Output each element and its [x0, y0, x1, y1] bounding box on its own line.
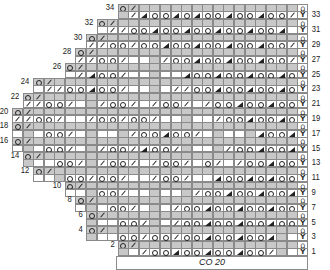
triangle-decrease-icon	[279, 28, 285, 33]
k2tog-icon	[89, 57, 94, 62]
k2tog-icon	[47, 79, 52, 84]
k2tog-icon	[110, 20, 115, 25]
triangle-decrease-icon	[205, 206, 211, 211]
triangle-decrease-icon	[237, 206, 243, 211]
k2tog-icon	[174, 220, 179, 225]
k2tog-icon	[195, 190, 200, 195]
row-number-3: 3	[311, 232, 315, 241]
triangle-decrease-icon	[268, 235, 274, 240]
chart-cell	[33, 174, 44, 182]
triangle-decrease-icon	[194, 43, 200, 48]
triangle-decrease-icon	[141, 147, 147, 152]
triangle-decrease-icon	[279, 117, 285, 122]
triangle-decrease-icon	[268, 161, 274, 166]
row-number-33: 33	[312, 10, 321, 19]
chart-cell	[118, 248, 129, 256]
k2tog-icon	[290, 13, 295, 18]
triangle-decrease-icon	[226, 191, 232, 196]
triangle-decrease-icon	[279, 87, 285, 92]
k2tog-icon	[227, 146, 232, 151]
k2tog-icon	[100, 102, 105, 107]
k2tog-icon	[121, 116, 126, 121]
row-number-23: 23	[312, 84, 321, 93]
chart-cell	[213, 248, 224, 256]
triangle-decrease-icon	[268, 102, 274, 107]
k2tog-icon	[100, 146, 105, 151]
k2tog-icon	[68, 102, 73, 107]
row-number-29: 29	[312, 40, 321, 49]
row-number-12: 12	[21, 166, 30, 175]
triangle-decrease-icon	[184, 28, 190, 33]
row-number-30: 30	[74, 33, 83, 42]
row-number-11: 11	[312, 173, 320, 182]
k2tog-icon	[100, 42, 105, 47]
chart-cell	[287, 248, 298, 256]
chart-cell	[128, 248, 139, 256]
cast-on-label: CO 20	[199, 257, 225, 267]
row-number-31: 31	[312, 25, 321, 34]
triangle-decrease-icon	[289, 191, 295, 196]
chart-cell	[139, 248, 150, 256]
chart-cell	[276, 248, 287, 256]
row-number-27: 27	[312, 55, 321, 64]
triangle-decrease-icon	[268, 176, 274, 181]
chart-cell	[171, 248, 182, 256]
k2tog-icon	[47, 87, 52, 92]
row-number-25: 25	[312, 70, 321, 79]
k2tog-icon	[79, 72, 84, 77]
k2tog-icon	[142, 235, 147, 240]
row-number-17: 17	[312, 129, 321, 138]
triangle-decrease-icon	[194, 58, 200, 63]
row-number-16: 16	[0, 136, 8, 145]
row-number-21: 21	[312, 99, 321, 108]
cast-on-row: CO 20	[116, 256, 308, 270]
k2tog-icon	[47, 168, 52, 173]
k2tog-icon	[216, 161, 221, 166]
triangle-decrease-icon	[289, 132, 295, 137]
triangle-decrease-icon	[258, 43, 264, 48]
chart-cell	[266, 248, 277, 256]
triangle-decrease-icon	[173, 13, 179, 18]
k2tog-icon	[68, 131, 73, 136]
k2tog-icon	[57, 116, 62, 121]
row-number-34: 34	[105, 3, 114, 12]
chart-cell	[86, 233, 97, 241]
triangle-decrease-icon	[247, 73, 253, 78]
k2tog-icon	[174, 205, 179, 210]
triangle-decrease-icon	[215, 28, 221, 33]
k2tog-icon	[184, 87, 189, 92]
k2tog-icon	[121, 176, 126, 181]
triangle-decrease-icon	[247, 117, 253, 122]
row-number-14: 14	[10, 151, 19, 160]
k2tog-icon	[131, 42, 136, 47]
k2tog-icon	[131, 13, 136, 18]
k2tog-icon	[184, 176, 189, 181]
k2tog-icon	[290, 42, 295, 47]
k2tog-icon	[79, 183, 84, 188]
k2tog-icon	[153, 176, 158, 181]
chart-cell	[192, 248, 203, 256]
k2tog-icon	[290, 57, 295, 62]
chart-cell	[160, 248, 171, 256]
k2tog-icon	[79, 161, 84, 166]
k2tog-icon	[237, 161, 242, 166]
triangle-decrease-icon	[215, 73, 221, 78]
k2tog-icon	[121, 72, 126, 77]
k2tog-icon	[89, 198, 94, 203]
row-number-24: 24	[21, 77, 30, 86]
edge-slip-icon: Y	[300, 248, 305, 256]
row-number-13: 13	[312, 158, 321, 167]
row-number-5: 5	[311, 218, 315, 227]
row-number-8: 8	[68, 195, 72, 204]
triangle-decrease-icon	[194, 13, 200, 18]
k2tog-icon	[100, 35, 105, 40]
k2tog-icon	[89, 176, 94, 181]
k2tog-icon	[174, 146, 179, 151]
k2tog-icon	[163, 57, 168, 62]
chart-cell	[223, 248, 234, 256]
chart-cell	[181, 248, 192, 256]
k2tog-icon	[26, 139, 31, 144]
k2tog-icon	[89, 116, 94, 121]
triangle-decrease-icon	[237, 235, 243, 240]
k2tog-icon	[131, 242, 136, 247]
